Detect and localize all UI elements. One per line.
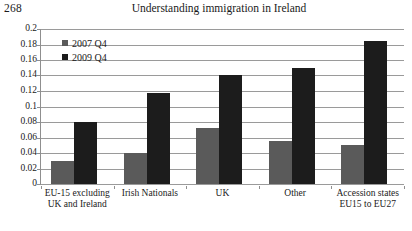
bar (74, 122, 97, 184)
y-axis-labels: 0.20.180.160.140.120.10.080.060.040.020 (0, 29, 37, 184)
legend-swatch-icon (62, 40, 68, 46)
chart-title: Understanding immigration in Ireland (0, 2, 412, 14)
legend-label: 2009 Q4 (72, 52, 107, 63)
legend-swatch-icon (62, 54, 68, 60)
bar-group (259, 29, 332, 185)
bar (292, 68, 315, 184)
y-tick-label: 0.2 (0, 24, 37, 34)
y-tick-label: 0 (0, 179, 37, 189)
y-tick-label: 0.18 (0, 40, 37, 50)
y-tick-label: 0.08 (0, 117, 37, 127)
bar (219, 75, 242, 184)
bar-chart: 0.20.180.160.140.120.10.080.060.040.020 … (0, 22, 412, 231)
legend-entry: 2007 Q4 (62, 36, 154, 50)
y-tick-label: 0.12 (0, 86, 37, 96)
bar (364, 41, 387, 184)
bar-group (331, 29, 404, 185)
y-tick-label: 0.1 (0, 102, 37, 112)
bar (196, 128, 219, 184)
y-tick-label: 0.14 (0, 70, 37, 80)
legend-label: 2007 Q4 (72, 38, 107, 49)
bar (124, 153, 147, 184)
bar (269, 141, 292, 184)
bar (341, 145, 364, 184)
bar (147, 93, 170, 184)
legend-entry: 2009 Q4 (62, 50, 154, 64)
y-tick-label: 0.02 (0, 164, 37, 174)
y-tick-label: 0.06 (0, 133, 37, 143)
y-tick-label: 0.04 (0, 148, 37, 158)
x-tick-label-line: UK and Ireland (35, 199, 120, 210)
page-header: 268 Understanding immigration in Ireland (0, 0, 412, 22)
x-tick-label: Accession statesEU15 to EU27 (325, 188, 410, 210)
x-axis-labels: EU-15 excludingUK and IrelandIrish Natio… (41, 186, 404, 226)
bar-group (186, 29, 259, 185)
bar (51, 161, 74, 184)
x-tick-label-line: EU15 to EU27 (325, 199, 410, 210)
y-tick-label: 0.16 (0, 55, 37, 65)
x-tick-label-line: Accession states (325, 188, 410, 199)
chart-legend: 2007 Q42009 Q4 (62, 36, 154, 64)
x-tick-mark (404, 186, 405, 189)
